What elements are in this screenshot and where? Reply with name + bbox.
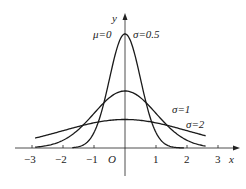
mu-annotation: μ=0 <box>92 28 112 40</box>
y-axis-label: y <box>111 12 117 24</box>
axes <box>15 13 240 176</box>
curves <box>35 34 206 148</box>
x-axis-label: x <box>228 153 234 165</box>
x-tick-label: −3 <box>24 153 36 165</box>
x-tick-label: −2 <box>55 153 67 165</box>
x-tick-label: 2 <box>184 153 190 165</box>
origin-label: O <box>108 153 116 165</box>
curve-2 <box>35 119 206 138</box>
legend-sigma-2: σ=2 <box>186 118 205 130</box>
legend-sigma-1: σ=1 <box>172 103 190 115</box>
y-axis-arrow-icon <box>123 13 128 20</box>
normal-distribution-chart: −3−2−1123 x y O μ=0 σ=0.5 σ=1 σ=2 <box>0 0 246 189</box>
x-tick-label: 1 <box>153 153 159 165</box>
x-tick-label: 3 <box>215 153 221 165</box>
legend-sigma-0-5: σ=0.5 <box>133 28 160 40</box>
x-axis-arrow-icon <box>233 146 240 151</box>
x-tick-label: −1 <box>86 153 98 165</box>
